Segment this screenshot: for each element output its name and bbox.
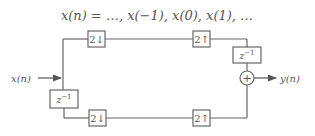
polyphase-diagram: x(n) = …, x(−1), x(0), x(1), … x(n) y(n)…	[0, 0, 315, 136]
input-label: x(n)	[11, 73, 31, 84]
svg-text:2↓: 2↓	[89, 34, 104, 45]
top-downsample-block: 2↓	[88, 31, 105, 47]
signal-paths	[63, 39, 247, 118]
output-label: y(n)	[279, 73, 300, 84]
input-delay-block: z−1	[50, 90, 78, 108]
svg-text:2↑: 2↑	[194, 34, 209, 45]
svg-text:2↑: 2↑	[194, 113, 209, 124]
sum-junction: +	[240, 71, 254, 85]
top-upsample-block: 2↑	[193, 31, 210, 47]
bottom-downsample-block: 2↓	[89, 110, 106, 126]
svg-text:2↓: 2↓	[90, 113, 105, 124]
equation-title: x(n) = …, x(−1), x(0), x(1), …	[61, 8, 253, 23]
output-delay-block: z−1	[233, 47, 261, 63]
svg-text:+: +	[242, 72, 251, 85]
bottom-upsample-block: 2↑	[193, 110, 210, 126]
